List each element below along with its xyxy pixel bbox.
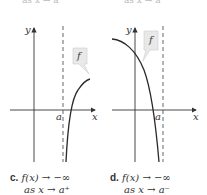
asymptote-label-c: a	[56, 112, 62, 122]
curve-label-c: f	[77, 51, 81, 61]
caption-d: d. f(x) → −∞	[110, 172, 171, 184]
caption-c: c. f(x) → −∞	[10, 172, 70, 184]
curve-label-d: f	[149, 35, 153, 45]
caption-c-line2: as x → a⁺	[24, 184, 70, 195]
caption-line2-c: as x → a⁺	[24, 184, 70, 195]
caption-d-line2: as x → a⁻	[124, 184, 170, 195]
callout-c	[73, 48, 89, 74]
curve-f-d	[112, 39, 159, 162]
x-axis-label-c: x	[92, 112, 98, 122]
graph-c	[10, 26, 95, 162]
graphs-canvas	[0, 0, 207, 195]
asymptote-label-d: a	[155, 112, 161, 122]
graph-d	[112, 26, 196, 162]
caption-line1-d: f(x) → −∞	[122, 172, 171, 183]
x-axis-label-d: x	[193, 112, 199, 122]
y-axis-label-d: y	[126, 25, 132, 35]
caption-letter-c: c.	[10, 172, 18, 183]
curve-f-c	[66, 79, 90, 162]
y-axis-label-c: y	[25, 25, 31, 35]
caption-line1-c: f(x) → −∞	[22, 172, 71, 183]
caption-letter-d: d.	[110, 172, 119, 183]
caption-line2-d: as x → a⁻	[124, 184, 170, 195]
